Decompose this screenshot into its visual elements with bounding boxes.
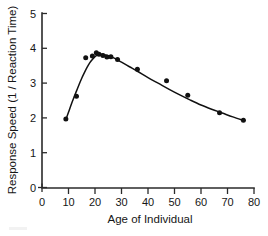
data-point bbox=[108, 54, 113, 59]
x-tick-label: 50 bbox=[168, 196, 180, 208]
data-point bbox=[63, 116, 68, 121]
scatter-plot: 5 4 3 2 1 0 0 10 20 30 40 50 60 bbox=[0, 0, 268, 236]
y-tick-label: 1 bbox=[30, 147, 36, 159]
y-tick-label: 2 bbox=[30, 112, 36, 124]
x-tick-label: 60 bbox=[195, 196, 207, 208]
scan-artifact bbox=[9, 227, 27, 230]
data-point bbox=[135, 67, 140, 72]
y-tick-label: 4 bbox=[30, 42, 36, 54]
x-tick-label: 40 bbox=[142, 196, 154, 208]
x-tick-label: 30 bbox=[115, 196, 127, 208]
x-axis-tick-labels: 0 10 20 30 40 50 60 70 80 bbox=[39, 196, 260, 208]
chart-figure: 5 4 3 2 1 0 0 10 20 30 40 50 60 bbox=[0, 0, 268, 236]
data-point bbox=[115, 57, 120, 62]
x-tick-label: 80 bbox=[248, 196, 260, 208]
data-point bbox=[217, 110, 222, 115]
y-tick-label: 5 bbox=[30, 8, 36, 20]
y-tick-label: 3 bbox=[30, 77, 36, 89]
x-tick-label: 20 bbox=[89, 196, 101, 208]
x-tick-label: 10 bbox=[62, 196, 74, 208]
data-point bbox=[83, 55, 88, 60]
data-point bbox=[74, 94, 79, 99]
data-point bbox=[90, 53, 95, 58]
data-point bbox=[164, 78, 169, 83]
y-axis-title: Response Speed (1 / Reaction Time) bbox=[6, 6, 18, 195]
x-tick-label: 70 bbox=[221, 196, 233, 208]
y-tick-label: 0 bbox=[30, 182, 36, 194]
x-axis-title: Age of Individual bbox=[107, 213, 192, 225]
data-point bbox=[185, 93, 190, 98]
data-point bbox=[241, 118, 246, 123]
x-tick-label: 0 bbox=[39, 196, 45, 208]
